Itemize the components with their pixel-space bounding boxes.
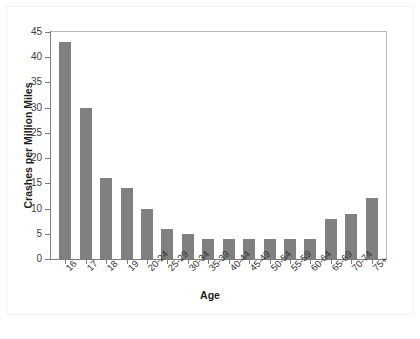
- plot-area: [51, 32, 386, 259]
- y-axis-tick: [45, 234, 50, 235]
- y-axis-tick-label: 5: [36, 229, 42, 239]
- y-axis-tick: [45, 158, 50, 159]
- y-axis-tick: [45, 82, 50, 83]
- y-axis-tick: [45, 32, 50, 33]
- x-axis-tick-label: 16: [64, 259, 78, 273]
- bar: [59, 42, 71, 259]
- bar-series: [51, 32, 386, 259]
- x-axis-tick-label: 18: [105, 259, 119, 273]
- bar: [100, 178, 112, 259]
- bar: [80, 108, 92, 259]
- y-axis-tick: [45, 183, 50, 184]
- y-axis-line: [50, 31, 51, 260]
- y-axis-tick: [45, 108, 50, 109]
- y-axis-title: Crashes per Million Miles: [22, 31, 34, 260]
- bar-chart: 051015202530354045 Crashes per Million M…: [0, 0, 420, 339]
- y-axis-tick: [45, 133, 50, 134]
- x-axis-title: Age: [0, 289, 420, 301]
- y-axis-tick: [45, 209, 50, 210]
- bar: [141, 209, 153, 259]
- bar: [121, 188, 133, 259]
- y-axis-tick-label: 0: [36, 254, 42, 264]
- chart-page: 051015202530354045 Crashes per Million M…: [0, 0, 420, 339]
- y-axis-tick: [45, 57, 50, 58]
